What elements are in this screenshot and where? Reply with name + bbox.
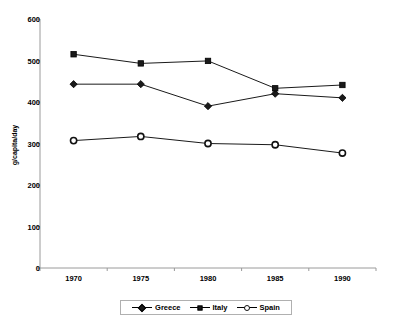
chart-legend: GreeceItalySpain xyxy=(120,300,292,315)
data-point-marker xyxy=(204,103,211,110)
data-point-marker xyxy=(138,133,144,139)
x-tick-label: 1990 xyxy=(322,274,362,283)
data-point-marker xyxy=(339,150,345,156)
legend-marker-icon xyxy=(237,303,257,312)
x-tick-label: 1980 xyxy=(188,274,228,283)
data-point-marker xyxy=(71,137,77,143)
series-spain xyxy=(71,133,346,156)
line-chart: g/capita/day 0100200300400500600 1970197… xyxy=(0,0,405,329)
legend-item-greece[interactable]: Greece xyxy=(132,303,180,312)
data-point-marker xyxy=(137,81,144,88)
legend-marker-icon xyxy=(190,303,210,312)
data-point-marker xyxy=(205,140,211,146)
data-point-marker xyxy=(138,61,143,66)
y-tick-label: 0 xyxy=(14,264,40,273)
series-greece xyxy=(70,81,346,110)
y-tick-label: 500 xyxy=(14,57,40,66)
data-point-marker xyxy=(339,94,346,101)
data-point-marker xyxy=(205,58,210,63)
legend-label: Italy xyxy=(212,303,228,312)
legend-label: Spain xyxy=(259,303,280,312)
y-tick-label: 600 xyxy=(14,15,40,24)
x-tick-label: 1985 xyxy=(255,274,295,283)
legend-item-spain[interactable]: Spain xyxy=(237,303,280,312)
data-point-marker xyxy=(272,142,278,148)
legend-marker-icon xyxy=(132,303,152,312)
data-point-marker xyxy=(273,86,278,91)
y-tick-label: 300 xyxy=(14,140,40,149)
y-tick-label: 200 xyxy=(14,181,40,190)
series-italy xyxy=(71,52,345,91)
x-tick-label: 1970 xyxy=(54,274,94,283)
data-point-marker xyxy=(71,52,76,57)
data-point-marker xyxy=(340,82,345,87)
legend-label: Greece xyxy=(154,303,180,312)
y-tick-label: 400 xyxy=(14,98,40,107)
y-tick-label: 100 xyxy=(14,223,40,232)
legend-item-italy[interactable]: Italy xyxy=(190,303,228,312)
data-point-marker xyxy=(70,81,77,88)
x-tick-label: 1975 xyxy=(121,274,161,283)
